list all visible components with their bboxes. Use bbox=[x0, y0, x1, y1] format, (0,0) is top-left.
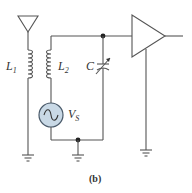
amplifier-icon bbox=[132, 15, 183, 150]
vs-label: VS bbox=[68, 107, 79, 123]
voltage-source-icon bbox=[39, 103, 63, 140]
antenna-icon bbox=[18, 16, 38, 32]
variable-capacitor-icon bbox=[96, 36, 110, 140]
ground-icon-l1 bbox=[22, 155, 34, 161]
l1-label: L1 bbox=[5, 59, 17, 75]
ground-icon-source bbox=[72, 155, 84, 161]
inductor-l2 bbox=[47, 36, 52, 103]
circuit-diagram: L1 L2 C VS bbox=[0, 0, 192, 193]
figure-caption: (b) bbox=[89, 173, 101, 185]
l2-label: L2 bbox=[57, 59, 69, 75]
c-label: C bbox=[86, 59, 95, 73]
ground-icon-amplifier bbox=[140, 150, 152, 156]
inductor-l1 bbox=[28, 32, 33, 155]
